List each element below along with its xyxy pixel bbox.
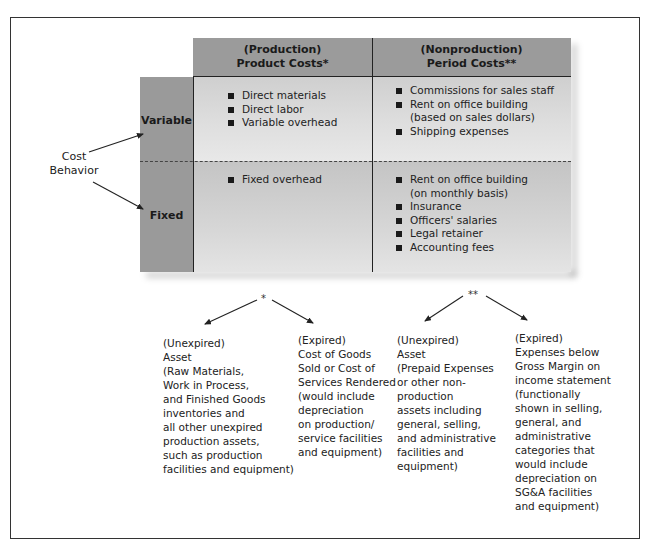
arrow-cost-to-variable-icon <box>89 134 143 152</box>
product-footnote-marker: * <box>261 293 266 304</box>
arrow-product-expired-icon <box>272 300 313 323</box>
arrow-cost-to-fixed-icon <box>93 182 143 209</box>
period-expired-note: (Expired) Expenses below Gross Margin on… <box>515 331 611 513</box>
period-footnote-marker: ** <box>468 289 478 300</box>
period-unexpired-note: (Unexpired) Asset (Prepaid Expenses or o… <box>397 333 496 473</box>
arrow-product-unexpired-icon <box>205 300 257 324</box>
arrow-period-expired-icon <box>486 296 527 320</box>
product-unexpired-note: (Unexpired) Asset (Raw Materials, Work i… <box>163 336 294 476</box>
arrow-period-unexpired-icon <box>425 296 463 321</box>
product-expired-note: (Expired) Cost of Goods Sold or Cost of … <box>298 333 396 459</box>
